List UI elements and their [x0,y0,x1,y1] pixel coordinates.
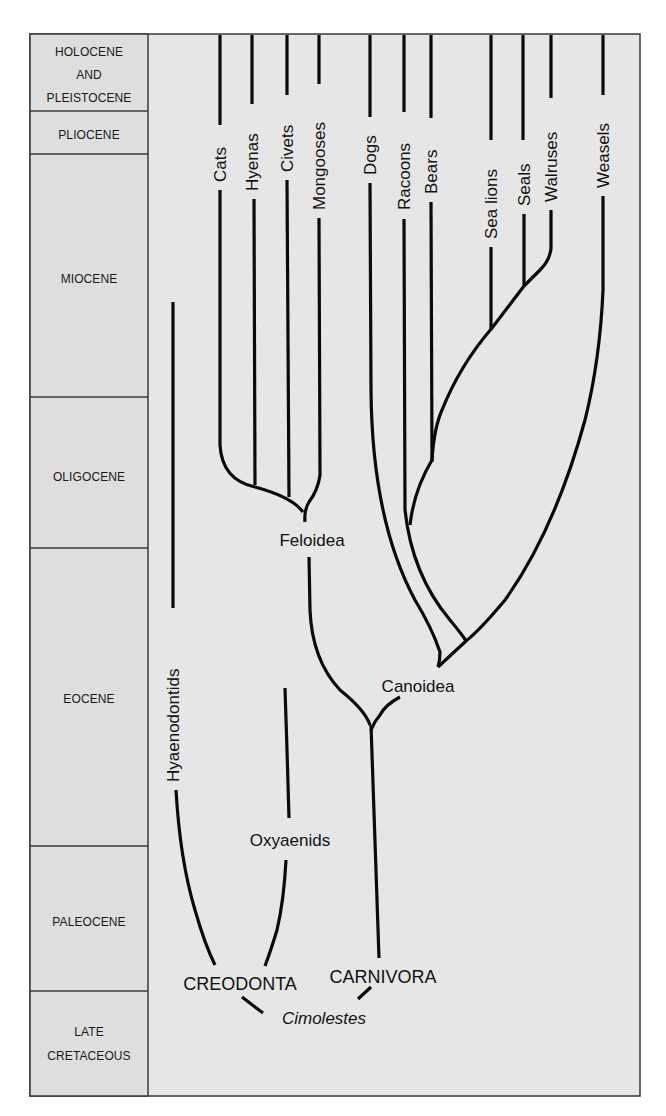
leaf-label-hyaenodontids: Hyaenodontids [164,669,183,782]
period-holocene-line3: PLEISTOCENE [47,91,132,105]
leaf-label-walruses: Walruses [542,132,561,202]
leaf-label-bears: Bears [422,150,441,194]
time-column [30,34,148,1096]
leaf-label-hyenas: Hyenas [243,133,262,191]
branch-bears [431,202,432,462]
leaf-label-mongooses: Mongooses [310,122,329,210]
period-pliocene: PLIOCENE [58,128,120,142]
leaf-label-seals: Seals [515,163,534,206]
node-label-canoidea: Canoidea [382,677,455,696]
node-label-cimolestes: Cimolestes [282,1009,367,1028]
leaf-label-cats: Cats [211,147,230,182]
node-label-oxyaenids: Oxyaenids [250,831,330,850]
node-label-feloidea: Feloidea [279,531,345,550]
period-holocene-line2: AND [76,68,102,82]
leaf-label-dogs: Dogs [361,135,380,175]
period-oligocene: OLIGOCENE [53,470,125,484]
period-eocene: EOCENE [63,692,114,706]
node-label-creodonta: CREODONTA [183,974,297,994]
carnivore-phylogeny-diagram: HOLOCENE AND PLEISTOCENE PLIOCENE MIOCEN… [0,0,666,1116]
period-paleocene: PALEOCENE [52,915,125,929]
period-holocene-line1: HOLOCENE [55,45,123,59]
period-late-cretaceous-line2: CRETACEOUS [47,1049,130,1063]
branch-civets [287,180,289,497]
node-label-carnivora: CARNIVORA [329,967,436,987]
period-late-cretaceous-line1: LATE [74,1025,104,1039]
leaf-label-sea-lions: Sea lions [482,169,501,239]
leaf-label-racoons: Racoons [395,143,414,210]
leaf-label-civets: Civets [278,125,297,172]
leaf-label-weasels: Weasels [594,123,613,188]
period-miocene: MIOCENE [61,272,118,286]
branch-hyenas [254,199,255,485]
